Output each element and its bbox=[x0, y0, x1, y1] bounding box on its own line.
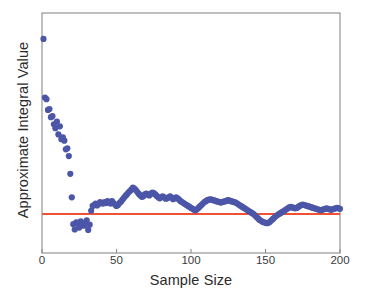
data-point bbox=[40, 36, 46, 42]
data-point bbox=[85, 227, 91, 233]
data-point bbox=[66, 153, 72, 159]
figure-canvas: Approximate Integral Value Sample Size 0… bbox=[0, 0, 367, 304]
data-point bbox=[57, 123, 63, 129]
data-point bbox=[64, 145, 70, 151]
y-axis-label: Approximate Integral Value bbox=[15, 15, 31, 245]
x-tick-label: 100 bbox=[181, 254, 200, 266]
data-point bbox=[49, 113, 55, 119]
data-point bbox=[87, 222, 93, 228]
data-point bbox=[69, 194, 75, 200]
data-point bbox=[67, 171, 73, 177]
data-point bbox=[337, 206, 343, 212]
x-axis-label: Sample Size bbox=[42, 272, 340, 288]
x-tick-label: 200 bbox=[330, 254, 349, 266]
data-point bbox=[43, 96, 49, 102]
data-point bbox=[61, 138, 67, 144]
data-point bbox=[46, 106, 52, 112]
x-tick-label: 50 bbox=[110, 254, 123, 266]
plot-frame bbox=[42, 13, 340, 253]
x-tick-label: 150 bbox=[256, 254, 275, 266]
x-tick-label: 0 bbox=[39, 254, 45, 266]
